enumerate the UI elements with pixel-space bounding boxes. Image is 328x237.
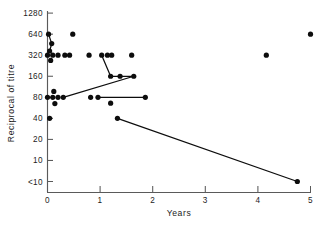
connector-line (63, 76, 133, 97)
data-point (67, 53, 72, 58)
figure-container: <10102040801603206401280 012345 Years Re… (0, 0, 328, 237)
x-axis-title: Years (167, 208, 192, 218)
y-tick-label: 160 (28, 72, 43, 81)
x-tick-label: 5 (308, 196, 313, 205)
data-point (46, 32, 51, 37)
x-tick-label: 2 (150, 196, 155, 205)
data-point (129, 53, 134, 58)
y-tick-label: 40 (33, 114, 43, 123)
data-point (55, 95, 60, 100)
data-point (47, 116, 52, 121)
connector-line (117, 118, 297, 181)
data-point (99, 53, 104, 58)
data-point (45, 95, 50, 100)
data-point (62, 53, 67, 58)
data-point (109, 53, 114, 58)
y-tick-label: 1280 (23, 9, 43, 18)
data-point (50, 95, 55, 100)
data-point (51, 89, 56, 94)
y-tick-label: 80 (33, 93, 43, 102)
data-point (55, 53, 60, 58)
data-point (50, 53, 55, 58)
x-axis-tick-marks (100, 186, 310, 193)
data-point (108, 74, 113, 79)
data-point (61, 95, 66, 100)
data-point (143, 95, 148, 100)
data-point (108, 101, 113, 106)
data-point (264, 53, 269, 58)
x-tick-label: 0 (45, 196, 50, 205)
data-point (49, 41, 54, 46)
data-point (308, 32, 313, 37)
data-point (295, 179, 300, 184)
x-tick-label: 4 (255, 196, 260, 205)
x-tick-label: 3 (203, 196, 208, 205)
data-points-group (45, 32, 313, 185)
y-tick-label: 320 (28, 51, 43, 60)
data-connector-lines (49, 34, 298, 181)
data-point (131, 74, 136, 79)
data-point (88, 95, 93, 100)
data-point (52, 101, 57, 106)
data-point (70, 32, 75, 37)
data-point (45, 53, 50, 58)
connector-line (102, 55, 111, 76)
y-axis-title: Reciprocal of titre (6, 64, 16, 142)
data-point (117, 74, 122, 79)
data-point (48, 58, 53, 63)
x-tick-label: 1 (98, 196, 103, 205)
y-tick-label: 640 (28, 30, 43, 39)
x-axis-tick-labels: 012345 (45, 196, 313, 205)
y-tick-label: <10 (28, 178, 43, 187)
scatter-plot: <10102040801603206401280 012345 Years Re… (0, 0, 328, 237)
y-axis-tick-labels: <10102040801603206401280 (23, 9, 43, 186)
y-tick-label: 20 (33, 135, 43, 144)
y-tick-label: 10 (33, 156, 43, 165)
data-point (95, 95, 100, 100)
data-point (115, 116, 120, 121)
data-point (86, 53, 91, 58)
